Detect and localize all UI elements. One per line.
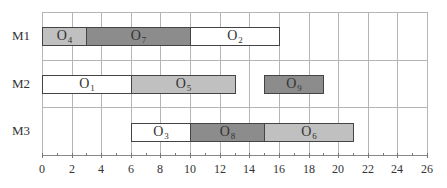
row-label-m1: M1 (12, 28, 42, 44)
axis-tick (383, 153, 384, 156)
x-tick-label: 22 (358, 162, 378, 177)
task-label: O7 (131, 28, 147, 45)
axis-tick (57, 153, 58, 156)
axis-tick (146, 153, 147, 156)
task-label: O1 (79, 76, 95, 93)
grid-line-vertical (397, 12, 398, 155)
x-tick-label: 20 (328, 162, 348, 177)
axis-tick (397, 153, 398, 158)
grid-line-horizontal (42, 12, 428, 13)
axis-tick (309, 153, 310, 158)
axis-tick (190, 153, 191, 158)
task-bar-o9: O9 (264, 75, 324, 94)
task-bar-o1: O1 (42, 75, 132, 94)
task-index: 8 (231, 131, 236, 141)
grid-line-vertical (368, 12, 369, 155)
grid-line-vertical (427, 12, 428, 155)
axis-tick (235, 153, 236, 156)
axis-tick (368, 153, 369, 158)
task-index: 9 (297, 83, 302, 93)
row-label-m3: M3 (12, 123, 42, 139)
task-index: 3 (164, 131, 169, 141)
task-op: O (79, 76, 89, 91)
x-tick-label: 18 (299, 162, 319, 177)
x-tick-label: 0 (32, 162, 52, 177)
task-label: O5 (176, 76, 192, 93)
x-tick-label: 24 (387, 162, 407, 177)
axis-tick (205, 153, 206, 156)
grid-line-horizontal (42, 107, 428, 108)
axis-tick (72, 153, 73, 158)
axis-tick (279, 153, 280, 158)
task-op: O (57, 28, 67, 43)
x-tick-label: 26 (417, 162, 437, 177)
axis-tick (353, 153, 354, 156)
axis-tick (160, 153, 161, 158)
axis-tick (42, 153, 43, 158)
axis-tick (264, 153, 265, 156)
task-bar-o8: O8 (190, 123, 265, 142)
x-tick-label: 6 (121, 162, 141, 177)
axis-tick (294, 153, 295, 156)
axis-tick (101, 153, 102, 158)
task-op: O (176, 76, 186, 91)
axis-tick (175, 153, 176, 156)
axis-tick (412, 153, 413, 156)
task-bar-o3: O3 (131, 123, 191, 142)
task-bar-o2: O2 (190, 27, 280, 46)
task-index: 4 (68, 35, 73, 45)
x-tick-label: 12 (210, 162, 230, 177)
task-op: O (286, 76, 296, 91)
row-label-m2: M2 (12, 76, 42, 92)
task-bar-o6: O6 (264, 123, 354, 142)
task-op: O (220, 124, 230, 139)
x-tick-label: 8 (150, 162, 170, 177)
axis-tick (323, 153, 324, 156)
x-tick-label: 4 (91, 162, 111, 177)
task-label: O3 (153, 124, 169, 141)
task-bar-o4: O4 (42, 27, 87, 46)
grid-line-horizontal (42, 60, 428, 61)
task-label: O2 (227, 28, 243, 45)
task-op: O (153, 124, 163, 139)
task-index: 7 (142, 35, 147, 45)
gantt-chart: 02468101214161820222426M1M2M3O4O7O2O1O5O… (0, 0, 447, 188)
task-index: 6 (312, 131, 317, 141)
axis-tick (220, 153, 221, 158)
task-label: O8 (220, 124, 236, 141)
task-bar-o5: O5 (131, 75, 236, 94)
axis-tick (427, 153, 428, 158)
x-tick-label: 2 (62, 162, 82, 177)
x-tick-label: 14 (239, 162, 259, 177)
axis-tick (86, 153, 87, 156)
task-label: O9 (286, 76, 302, 93)
axis-tick (131, 153, 132, 158)
task-index: 2 (238, 35, 243, 45)
axis-tick (116, 153, 117, 156)
axis-tick (338, 153, 339, 158)
task-label: O4 (57, 28, 73, 45)
axis-tick (249, 153, 250, 158)
x-tick-label: 10 (180, 162, 200, 177)
task-bar-o7: O7 (86, 27, 191, 46)
task-op: O (301, 124, 311, 139)
task-op: O (227, 28, 237, 43)
task-op: O (131, 28, 141, 43)
task-index: 5 (187, 83, 192, 93)
task-label: O6 (301, 124, 317, 141)
x-tick-label: 16 (269, 162, 289, 177)
task-index: 1 (90, 83, 95, 93)
